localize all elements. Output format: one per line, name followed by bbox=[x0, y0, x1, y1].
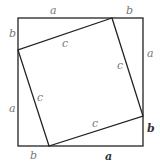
label-c-right: c bbox=[117, 59, 123, 72]
outer-square bbox=[18, 18, 143, 146]
label-right-a: a bbox=[147, 47, 154, 60]
label-bottom-a: a bbox=[105, 150, 112, 163]
label-top-b: b bbox=[126, 4, 133, 17]
label-c-top: c bbox=[62, 37, 68, 50]
label-left-b: b bbox=[9, 27, 16, 40]
label-c-bottom: c bbox=[92, 117, 98, 130]
label-left-a: a bbox=[9, 102, 16, 115]
label-top-a: a bbox=[50, 4, 57, 17]
label-right-b: b bbox=[147, 122, 155, 135]
label-c-left: c bbox=[37, 91, 43, 104]
inner-square bbox=[18, 18, 143, 146]
pythagorean-diagram: a b b a a b b a c c c c bbox=[0, 0, 160, 166]
label-bottom-b: b bbox=[30, 149, 37, 162]
